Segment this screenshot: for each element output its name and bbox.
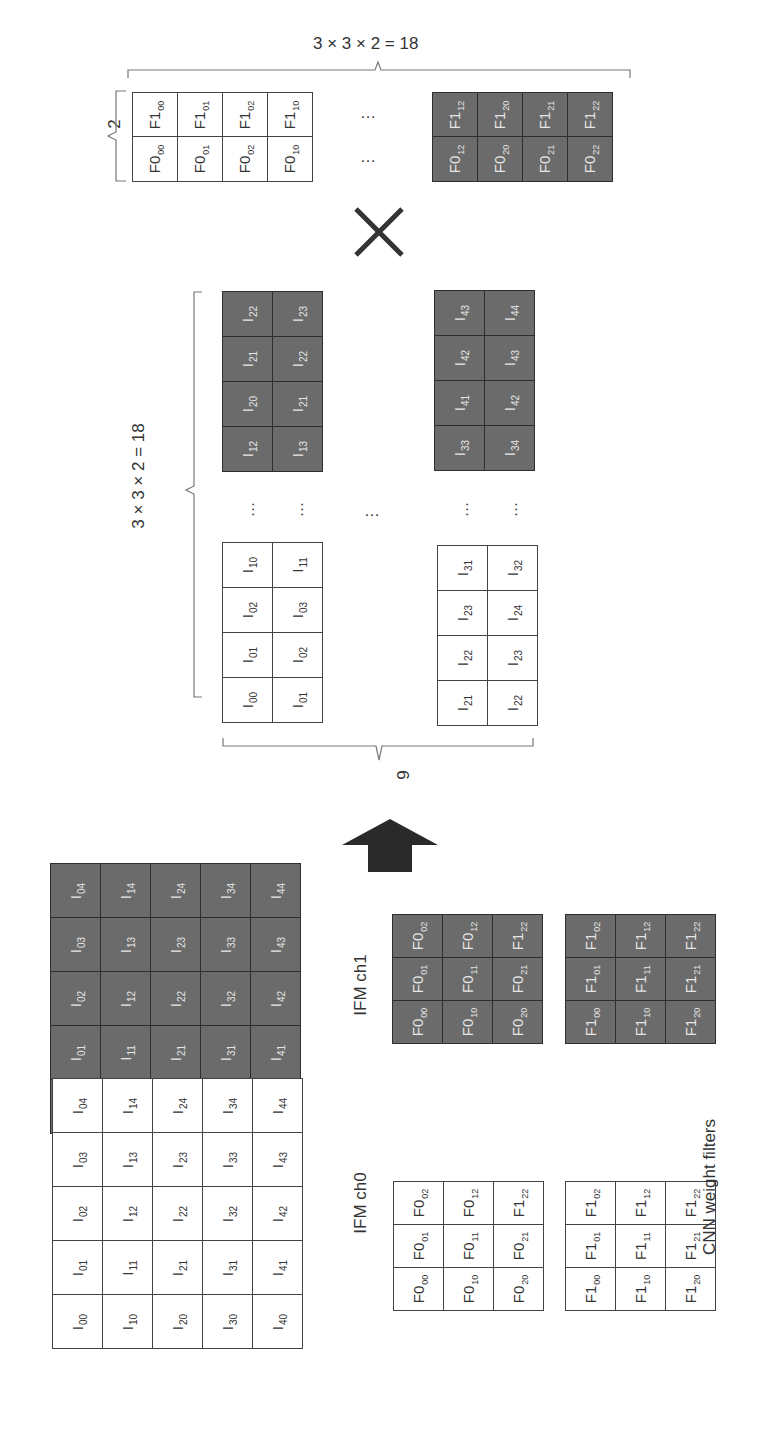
cell-index: 22 — [591, 145, 601, 155]
cell-index: 43 — [460, 305, 471, 316]
cell-symbol: F0 — [146, 156, 163, 174]
cell-label: I24 — [168, 882, 184, 898]
cell-symbol: F1 — [281, 112, 298, 130]
filter-cell: F120 — [665, 1000, 716, 1044]
input-matrix-cell: I43 — [434, 290, 485, 336]
ifm-cell: I21 — [152, 1240, 203, 1295]
cell-label: F122 — [683, 922, 699, 951]
cell-symbol: I — [169, 1271, 186, 1275]
filter-cell: F002 — [393, 1181, 444, 1225]
cell-index: 03 — [78, 1151, 89, 1162]
cell-label: I42 — [270, 1205, 286, 1221]
cell-label: I13 — [120, 1151, 136, 1167]
cell-symbol: I — [169, 1325, 186, 1329]
cell-label: I11 — [290, 557, 306, 573]
cell-index: 00 — [156, 145, 166, 155]
filter-cell: F001 — [392, 957, 443, 1001]
cell-label: F102 — [237, 101, 253, 130]
cell-symbol: F1 — [682, 1286, 699, 1304]
input-matrix-cell: I01 — [222, 632, 273, 678]
cell-label: I03 — [290, 602, 306, 618]
cell-symbol: I — [167, 948, 184, 952]
cell-label: I20 — [240, 396, 256, 412]
ifm-cell: I12 — [102, 1186, 153, 1241]
cell-symbol: F0 — [409, 933, 426, 951]
filter-cell: F110 — [615, 1267, 666, 1311]
filter-matrix-cell: F022 — [567, 136, 613, 182]
filter-matrix-cell: F120 — [477, 92, 523, 138]
cell-index: 33 — [228, 1151, 239, 1162]
filter-matrix-cell: F101 — [177, 92, 223, 138]
ifm-cell: I01 — [52, 1240, 103, 1295]
ellipsis-row-f0: … — [360, 148, 376, 166]
cell-index: 01 — [78, 1259, 89, 1270]
cell-index: 02 — [248, 602, 259, 613]
ellipsis-center: … — [364, 502, 380, 520]
cell-label: F002 — [237, 145, 253, 174]
filter-cell: F102 — [565, 1181, 616, 1225]
cell-index: 11 — [128, 1260, 139, 1270]
cell-index: 33 — [226, 936, 237, 947]
cell-index: 12 — [470, 1189, 480, 1199]
cell-label: I40 — [270, 1313, 286, 1329]
filter-cell: F000 — [392, 1000, 443, 1044]
cell-index: 13 — [126, 936, 137, 947]
filter-matrix-cell: F002 — [222, 136, 268, 182]
cell-index: 21 — [519, 965, 529, 975]
cell-symbol: I — [219, 1217, 236, 1221]
cell-index: 02 — [420, 1189, 430, 1199]
cell-label: I22 — [290, 351, 306, 367]
multiply-icon — [350, 205, 410, 260]
cell-index: 20 — [248, 396, 259, 407]
cell-symbol: I — [239, 453, 256, 457]
cell-symbol: I — [454, 572, 471, 576]
cell-index: 02 — [298, 647, 309, 658]
cell-symbol: F1 — [682, 1243, 699, 1261]
cell-index: 23 — [463, 605, 474, 616]
cell-symbol: F1 — [582, 976, 599, 994]
cell-index: 34 — [510, 440, 521, 451]
cell-symbol: I — [167, 1002, 184, 1006]
ifm-cell: I44 — [250, 863, 301, 918]
cell-symbol: I — [69, 1325, 86, 1329]
cell-symbol: I — [289, 363, 306, 367]
cell-symbol: I — [117, 894, 134, 898]
cell-label: F010 — [461, 1275, 477, 1304]
cell-symbol: I — [269, 1325, 286, 1329]
cell-symbol: I — [117, 948, 134, 952]
cell-index: 01 — [419, 965, 429, 975]
cell-index: 21 — [520, 1232, 530, 1242]
cell-index: 01 — [248, 647, 259, 658]
cell-symbol: F1 — [632, 1286, 649, 1304]
cell-label: I22 — [455, 650, 471, 666]
cell-index: 04 — [76, 882, 87, 893]
cell-symbol: I — [269, 1109, 286, 1113]
cell-index: 21 — [178, 1259, 189, 1270]
cell-index: 02 — [419, 922, 429, 932]
cell-index: 11 — [642, 1232, 652, 1241]
cell-index: 20 — [519, 1008, 529, 1018]
cell-symbol: I — [501, 317, 518, 321]
cell-label: I41 — [452, 395, 468, 411]
cell-index: 21 — [692, 965, 702, 975]
ifm-cell: I40 — [252, 1294, 303, 1349]
cell-label: I10 — [120, 1313, 136, 1329]
input-matrix-cell: I10 — [222, 542, 273, 588]
cell-index: 23 — [513, 650, 524, 661]
cell-symbol: I — [67, 1002, 84, 1006]
cell-index: 10 — [642, 1008, 652, 1018]
cell-label: F020 — [492, 145, 508, 174]
cell-symbol: I — [451, 407, 468, 411]
cell-symbol: I — [451, 362, 468, 366]
cell-index: 22 — [298, 351, 309, 362]
cell-symbol: F1 — [146, 112, 163, 130]
cell-label: F012 — [461, 1189, 477, 1218]
cell-symbol: F1 — [582, 1200, 599, 1218]
filter-cell: F121 — [665, 957, 716, 1001]
cell-label: I23 — [290, 306, 306, 322]
cell-label: F101 — [583, 1232, 599, 1261]
cell-symbol: I — [119, 1217, 136, 1221]
cell-label: I13 — [118, 936, 134, 952]
filter-matrix-cell: F010 — [267, 136, 313, 182]
cell-symbol: F0 — [509, 976, 526, 994]
